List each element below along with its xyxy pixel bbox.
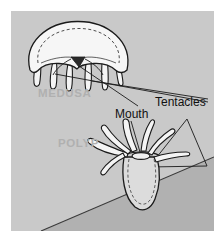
- label-medusa: MEDUSA: [38, 88, 91, 100]
- figure-page: MEDUSA POLYP Tentacles Mouth: [0, 0, 222, 243]
- medusa-figure: [29, 21, 128, 91]
- diagram-artwork: [11, 11, 214, 231]
- diagram-canvas: MEDUSA POLYP Tentacles Mouth: [11, 11, 214, 231]
- label-polyp: POLYP: [58, 138, 99, 150]
- medusa-tentacle-2: [50, 61, 57, 89]
- polyp-tentacle-7: [101, 153, 125, 175]
- label-mouth: Mouth: [115, 108, 148, 120]
- medusa-tentacle-5: [102, 62, 109, 90]
- label-tentacles: Tentacles: [155, 96, 206, 108]
- polyp-mouth: [132, 153, 150, 160]
- leader-polyp-tentacles-right: [187, 119, 207, 166]
